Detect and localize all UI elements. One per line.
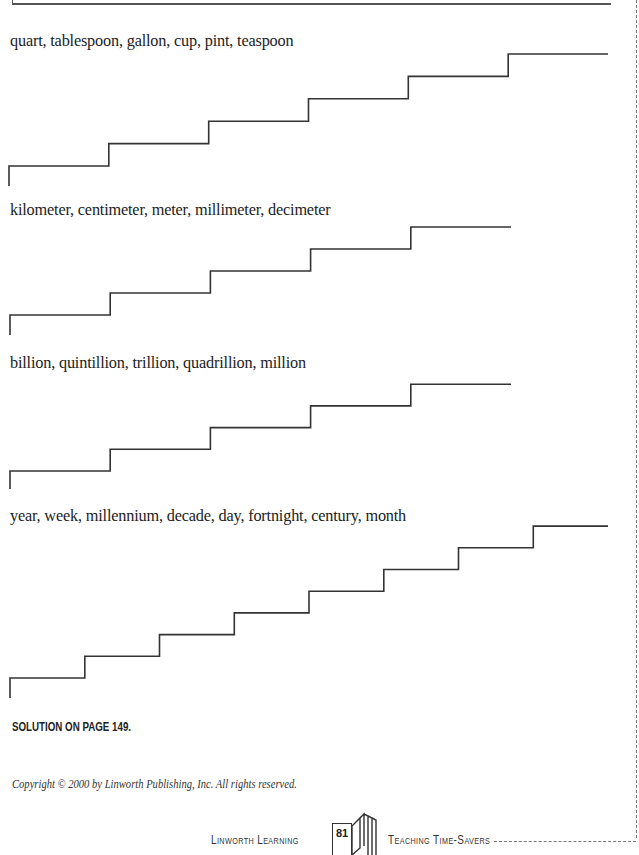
top-frame-border [12, 0, 611, 5]
footer-dashed-rule [494, 841, 636, 842]
word-list-numbers: billion, quintillion, trillion, quadrill… [10, 352, 306, 373]
right-dashed-border [636, 0, 637, 838]
footer-publisher: Linworth Learning [211, 833, 299, 847]
word-list-time: year, week, millennium, decade, day, for… [10, 505, 406, 526]
staircase-2 [10, 227, 511, 335]
staircase-1 [9, 54, 608, 186]
staircase-3 [10, 384, 511, 489]
word-list-length: kilometer, centimeter, meter, millimeter… [10, 199, 331, 220]
book-icon [350, 812, 380, 855]
page-number: 81 [332, 823, 352, 855]
footer-series: Teaching Time-Savers [388, 833, 490, 847]
solution-note: SOLUTION ON PAGE 149. [12, 720, 131, 734]
copyright-notice: Copyright © 2000 by Linworth Publishing,… [12, 778, 297, 790]
word-list-volume: quart, tablespoon, gallon, cup, pint, te… [10, 30, 293, 51]
staircase-4 [10, 526, 608, 698]
